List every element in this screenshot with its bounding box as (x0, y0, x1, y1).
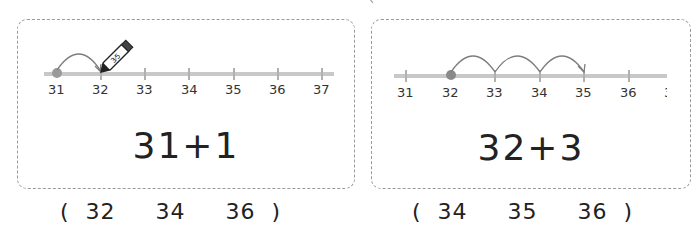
svg-text:32: 32 (442, 85, 459, 100)
number-line-2: 31 32 33 34 35 36 37 (0, 0, 667, 100)
svg-text:34: 34 (531, 85, 548, 100)
svg-text:31: 31 (397, 85, 414, 100)
jump-arcs-icon (451, 56, 585, 72)
svg-text:33: 33 (486, 85, 503, 100)
answer-choices-2[interactable]: ( 34 35 36 ) (412, 199, 633, 224)
expression-1: 31+1 (17, 125, 355, 166)
svg-text:35: 35 (575, 85, 592, 100)
answer-choices-1[interactable]: ( 32 34 36 ) (60, 199, 281, 224)
svg-text:36: 36 (620, 85, 637, 100)
expression-2: 32+3 (371, 127, 691, 168)
svg-text:37: 37 (664, 85, 667, 100)
